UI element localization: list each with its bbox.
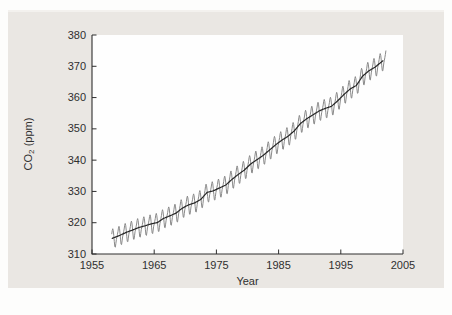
y-axis-label-subscript: 2 [27,149,36,153]
x-tick-label: 1975 [204,259,228,271]
y-tick-label: 330 [68,185,86,197]
y-tick-label: 370 [68,60,86,72]
y-tick-label: 340 [68,154,86,166]
y-tick-label: 310 [68,248,86,260]
x-axis-label: Year [92,275,403,287]
x-tick-label: 1985 [266,259,290,271]
y-tick-label: 350 [68,122,86,134]
x-tick-label: 1955 [80,259,104,271]
x-tick-label: 1965 [142,259,166,271]
y-tick-label: 380 [68,29,86,41]
y-tick-label: 320 [68,216,86,228]
y-axis-label-post: (ppm) [22,118,34,150]
y-axis-label: CO2 (ppm) [22,79,36,209]
co2-chart: 3103203303403503603703801955196519751985… [8,12,444,288]
x-tick-label: 2005 [391,259,415,271]
x-tick-label: 1995 [329,259,353,271]
page-background: 3103203303403503603703801955196519751985… [0,0,452,315]
y-axis-label-pre: CO [22,154,34,171]
figure-panel: 3103203303403503603703801955196519751985… [8,10,444,288]
y-tick-label: 360 [68,91,86,103]
